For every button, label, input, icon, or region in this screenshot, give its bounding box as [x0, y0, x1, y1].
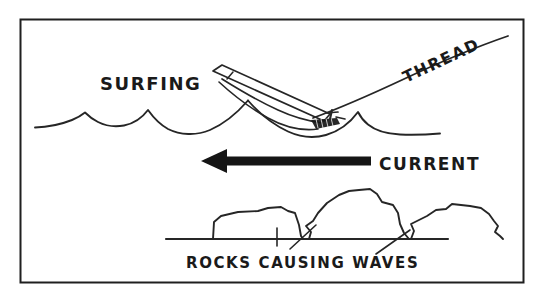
figure-root: SURFING THREAD CURRENT ROCKS CAUSING WAV…	[0, 0, 544, 303]
label-rocks-causing-waves: ROCKS CAUSING WAVES	[186, 254, 419, 272]
label-current: CURRENT	[379, 154, 480, 174]
diagram-canvas: SURFING THREAD CURRENT ROCKS CAUSING WAV…	[0, 0, 544, 303]
label-surfing: SURFING	[100, 73, 201, 94]
